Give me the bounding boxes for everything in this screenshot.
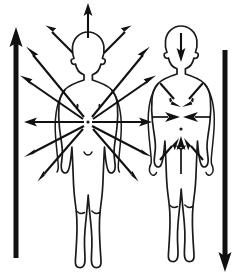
navel-target-point xyxy=(179,127,182,130)
navel-center-point xyxy=(86,120,89,123)
illustration-canvas: Two human body outlines with energy flow… xyxy=(0,0,242,280)
body-energy-flow-diagram xyxy=(0,0,242,280)
